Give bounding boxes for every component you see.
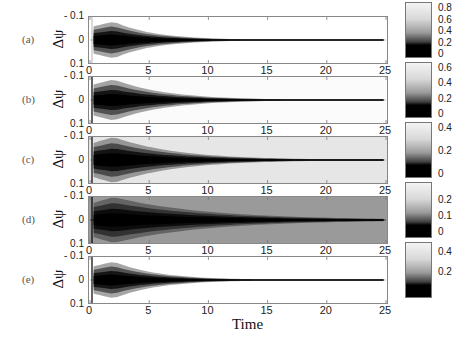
heatmap-image xyxy=(89,197,387,243)
panel-label: (b) xyxy=(22,93,35,105)
heatmap-plot xyxy=(88,76,388,124)
x-tick-label: 0 xyxy=(79,304,99,316)
x-tick-label: 20 xyxy=(316,304,336,316)
panel-label: (d) xyxy=(22,213,35,225)
panel-a: (a)Δψ- 0.100.105101520250.80.60.40.20 xyxy=(0,0,465,60)
heatmap-image xyxy=(89,77,387,123)
x-tick-label: 5 xyxy=(138,304,158,316)
heatmap-plot xyxy=(88,136,388,184)
y-tick-label: - 0.1 xyxy=(58,10,84,21)
colorbar xyxy=(405,2,432,58)
colorbar-tick-label: 0.4 xyxy=(438,25,452,36)
heatmap-plot xyxy=(88,256,388,304)
panel-d: (d)Δψ- 0.100.105101520250.20.10 xyxy=(0,180,465,240)
colorbar-tick-label: 0.2 xyxy=(438,145,452,156)
y-tick-label: - 0.1 xyxy=(58,190,84,201)
y-tick-label: - 0.1 xyxy=(58,250,84,261)
colorbar-tick-label: 0.4 xyxy=(438,122,452,133)
y-tick-label: 0 xyxy=(58,34,84,45)
colorbar xyxy=(405,122,432,178)
y-tick-label: - 0.1 xyxy=(58,130,84,141)
colorbar-tick-label: 0.2 xyxy=(438,93,452,104)
panel-label: (e) xyxy=(22,273,34,285)
panel-label: (c) xyxy=(22,153,34,165)
y-tick-label: 0 xyxy=(58,214,84,225)
colorbar-tick-label: 0.2 xyxy=(438,37,452,48)
heatmap-plot xyxy=(88,196,388,244)
colorbar-tick-label: 0.6 xyxy=(438,14,452,25)
x-tick-label: 25 xyxy=(375,304,395,316)
colorbar-tick-label: 0.8 xyxy=(438,2,452,13)
colorbar-tick-label: 0.1 xyxy=(438,210,452,221)
colorbar-tick-label: 0.4 xyxy=(438,77,452,88)
heatmap-image xyxy=(89,17,387,63)
y-tick-label: 0 xyxy=(58,154,84,165)
colorbar-tick-label: 0.6 xyxy=(438,62,452,73)
panel-b: (b)Δψ- 0.100.105101520250.60.40.20 xyxy=(0,60,465,120)
y-tick-label: 0 xyxy=(58,94,84,105)
colorbar-tick-label: 0 xyxy=(438,168,444,179)
panel-c: (c)Δψ- 0.100.105101520250.40.20 xyxy=(0,120,465,180)
heatmap-plot xyxy=(88,16,388,64)
colorbar-tick-label: 0 xyxy=(438,226,444,237)
panel-e: (e)Δψ- 0.100.105101520250.40.2 xyxy=(0,240,465,300)
y-tick-label: - 0.1 xyxy=(58,70,84,81)
heatmap-image xyxy=(89,137,387,183)
colorbar-tick-label: 0 xyxy=(438,48,444,59)
heatmap-image xyxy=(89,257,387,303)
colorbar-tick-label: 0 xyxy=(438,108,444,119)
x-axis-title: Time xyxy=(0,316,465,333)
colorbar xyxy=(405,182,432,238)
y-tick-label: 0 xyxy=(58,274,84,285)
colorbar-tick-label: 0.2 xyxy=(438,266,452,277)
x-tick-label: 10 xyxy=(197,304,217,316)
panel-label: (a) xyxy=(22,33,34,45)
colorbar-tick-label: 0.2 xyxy=(438,194,452,205)
colorbar xyxy=(405,242,432,298)
x-tick-label: 15 xyxy=(257,304,277,316)
colorbar xyxy=(405,62,432,118)
colorbar-tick-label: 0.4 xyxy=(438,246,452,257)
